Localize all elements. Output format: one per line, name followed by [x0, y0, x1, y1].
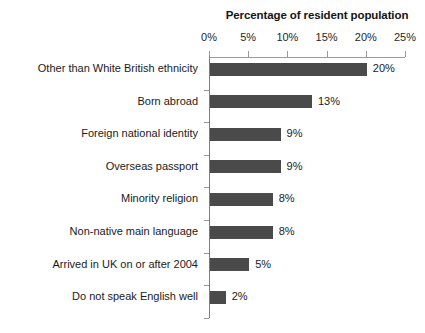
bar-row: Minority religion8% [0, 189, 425, 222]
category-label: Arrived in UK on or after 2004 [52, 258, 198, 271]
bar-value-label: 8% [279, 191, 295, 205]
y-tick-mark [204, 187, 209, 188]
x-tick-label: 15% [316, 31, 338, 43]
bar [210, 193, 273, 206]
bar-value-label: 9% [287, 126, 303, 140]
y-tick-mark [204, 90, 209, 91]
bar-value-label: 2% [232, 289, 248, 303]
bar [210, 226, 273, 239]
x-axis-tick-labels: 0%5%10%15%20%25% [209, 31, 425, 45]
x-tick-label: 0% [201, 31, 217, 43]
bar-row: Foreign national identity9% [0, 124, 425, 157]
x-tick-mark [248, 51, 249, 57]
category-label: Overseas passport [106, 160, 198, 173]
x-tick-label: 20% [355, 31, 377, 43]
plot-area: Other than White British ethnicity20%Bor… [0, 57, 425, 319]
category-label: Foreign national identity [81, 127, 198, 140]
category-label: Other than White British ethnicity [38, 62, 198, 75]
bar [210, 95, 312, 108]
bar [210, 160, 281, 173]
bar [210, 291, 226, 304]
bar-value-label: 9% [287, 159, 303, 173]
x-tick-mark [287, 51, 288, 57]
y-tick-mark [204, 285, 209, 286]
bar [210, 128, 281, 141]
x-tick-label: 5% [240, 31, 256, 43]
x-tick-label: 25% [394, 31, 416, 43]
y-tick-mark [204, 155, 209, 156]
bar [210, 258, 249, 271]
y-tick-mark [204, 253, 209, 254]
x-tick-mark [327, 51, 328, 57]
x-tick-label: 10% [276, 31, 298, 43]
bar-row: Born abroad13% [0, 92, 425, 125]
category-label: Minority religion [121, 192, 198, 205]
bar-value-label: 20% [373, 61, 395, 75]
bar [210, 63, 367, 76]
bar-value-label: 13% [318, 94, 340, 108]
bar-chart: Percentage of resident population 0%5%10… [0, 0, 425, 333]
bar-row: Arrived in UK on or after 20045% [0, 255, 425, 288]
y-tick-mark [204, 122, 209, 123]
bar-row: Other than White British ethnicity20% [0, 59, 425, 92]
y-tick-mark [204, 220, 209, 221]
bar-row: Do not speak English well2% [0, 287, 425, 320]
bar-row: Overseas passport9% [0, 157, 425, 190]
chart-title: Percentage of resident population [209, 9, 425, 21]
bar-row: Non-native main language8% [0, 222, 425, 255]
category-label: Do not speak English well [72, 290, 198, 303]
category-label: Born abroad [137, 95, 198, 108]
x-tick-mark [209, 51, 210, 57]
bar-value-label: 8% [279, 224, 295, 238]
y-tick-mark [204, 318, 209, 319]
x-tick-mark [366, 51, 367, 57]
bar-value-label: 5% [255, 257, 271, 271]
category-label: Non-native main language [70, 225, 198, 238]
x-tick-mark [405, 51, 406, 57]
